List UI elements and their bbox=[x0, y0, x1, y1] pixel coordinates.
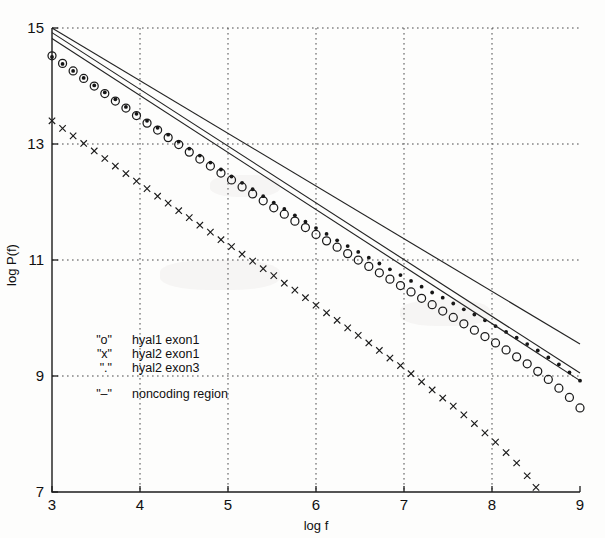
marker-x bbox=[80, 140, 86, 146]
marker-dot bbox=[420, 285, 424, 289]
figure-canvas: 345678979111315 log f log P(f) "o"hyal1 … bbox=[0, 0, 605, 538]
marker-dot bbox=[113, 97, 117, 101]
marker-circle bbox=[439, 307, 447, 315]
marker-dot bbox=[399, 273, 403, 277]
marker-circle bbox=[513, 353, 521, 361]
gridlines bbox=[52, 28, 580, 492]
marker-dot bbox=[409, 279, 413, 283]
marker-x bbox=[355, 332, 361, 338]
y-tick-label: 9 bbox=[36, 367, 44, 384]
marker-dot bbox=[187, 147, 191, 151]
marker-x bbox=[59, 125, 65, 131]
marker-dot bbox=[293, 213, 297, 217]
marker-dot bbox=[462, 307, 466, 311]
marker-x bbox=[281, 280, 287, 286]
marker-circle bbox=[534, 367, 542, 375]
marker-dot bbox=[177, 140, 181, 144]
marker-x bbox=[302, 295, 308, 301]
marker-dot bbox=[304, 220, 308, 224]
y-axis-label: log P(f) bbox=[4, 244, 19, 286]
marker-x bbox=[176, 208, 182, 214]
marker-x bbox=[533, 484, 539, 490]
marker-dot bbox=[346, 244, 350, 248]
marker-dot bbox=[166, 133, 170, 137]
y-tick-label: 15 bbox=[27, 19, 44, 36]
y-tick-label: 7 bbox=[36, 483, 44, 500]
marker-dot bbox=[145, 119, 149, 123]
marker-circle bbox=[291, 217, 299, 225]
x-tick-label: 5 bbox=[224, 496, 232, 513]
marker-dot bbox=[82, 76, 86, 80]
marker-dot bbox=[451, 302, 455, 306]
marker-circle bbox=[481, 333, 489, 341]
marker-dot bbox=[430, 291, 434, 295]
marker-x bbox=[102, 155, 108, 161]
marker-x bbox=[323, 310, 329, 316]
marker-dot bbox=[441, 296, 445, 300]
marker-x bbox=[482, 430, 488, 436]
marker-dot bbox=[135, 112, 139, 116]
marker-dot bbox=[124, 105, 128, 109]
marker-x bbox=[144, 185, 150, 191]
legend-symbol: "o" bbox=[96, 333, 112, 347]
marker-circle bbox=[344, 250, 352, 258]
x-tick-label: 9 bbox=[576, 496, 584, 513]
series-o bbox=[48, 52, 584, 412]
marker-x bbox=[112, 163, 118, 169]
marker-dot bbox=[219, 168, 223, 172]
legend-symbol: "x" bbox=[97, 347, 112, 361]
marker-dot bbox=[325, 232, 329, 236]
marker-dot bbox=[251, 187, 255, 191]
marker-dot bbox=[230, 175, 234, 179]
marker-x bbox=[271, 272, 277, 278]
marker-x bbox=[366, 340, 372, 346]
legend-label: noncoding region bbox=[132, 387, 228, 401]
marker-x bbox=[513, 460, 519, 466]
marker-circle bbox=[333, 243, 341, 251]
marker-x bbox=[292, 287, 298, 293]
marker-circle bbox=[460, 320, 468, 328]
marker-circle bbox=[396, 282, 404, 290]
marker-x bbox=[429, 387, 435, 393]
marker-x bbox=[249, 258, 255, 264]
marker-circle bbox=[301, 224, 309, 232]
x-tick-label: 4 bbox=[136, 496, 144, 513]
marker-dot bbox=[103, 90, 107, 94]
marker-x bbox=[387, 355, 393, 361]
marker-circle bbox=[502, 346, 510, 354]
marker-x bbox=[461, 412, 467, 418]
marker-x bbox=[123, 170, 129, 176]
marker-dot bbox=[61, 62, 65, 66]
marker-x bbox=[418, 379, 424, 385]
marker-x bbox=[397, 362, 403, 368]
marker-circle bbox=[270, 204, 278, 212]
legend: "o"hyal1 exon1"x"hyal2 exon1"."hyal2 exo… bbox=[96, 333, 228, 401]
y-tick-label: 13 bbox=[27, 135, 44, 152]
legend-label: hyal1 exon1 bbox=[132, 333, 199, 347]
marker-circle bbox=[565, 393, 573, 401]
marker-x bbox=[440, 395, 446, 401]
marker-circle bbox=[418, 294, 426, 302]
marker-x bbox=[376, 347, 382, 353]
data-series-group bbox=[48, 52, 584, 491]
marker-dot bbox=[92, 84, 96, 88]
marker-circle bbox=[375, 269, 383, 277]
marker-dot bbox=[335, 238, 339, 242]
tick-labels: 345678979111315 bbox=[27, 19, 584, 513]
marker-dot bbox=[367, 256, 371, 260]
marker-x bbox=[228, 243, 234, 249]
marker-x bbox=[133, 178, 139, 184]
x-tick-label: 7 bbox=[400, 496, 408, 513]
marker-circle bbox=[449, 313, 457, 321]
marker-x bbox=[492, 439, 498, 445]
marker-x bbox=[471, 420, 477, 426]
marker-circle bbox=[407, 288, 415, 296]
marker-dot bbox=[377, 262, 381, 266]
x-tick-label: 8 bbox=[488, 496, 496, 513]
marker-x bbox=[197, 222, 203, 228]
marker-dot bbox=[209, 161, 213, 165]
marker-x bbox=[239, 251, 245, 257]
marker-dot bbox=[240, 181, 244, 185]
x-tick-label: 3 bbox=[48, 496, 56, 513]
marker-circle bbox=[555, 384, 563, 392]
